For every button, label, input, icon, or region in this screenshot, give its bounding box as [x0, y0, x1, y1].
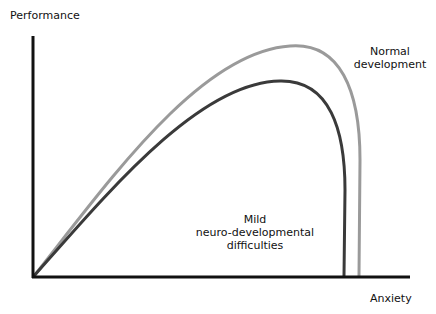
- mild-label-line1: Mild: [190, 213, 320, 226]
- yerkes-dodson-diagram: Performance Anxiety Normal development M…: [0, 0, 436, 314]
- normal-label-line2: development: [346, 58, 434, 71]
- normal-development-label: Normal development: [346, 45, 434, 71]
- mild-label-line2: neuro-developmental: [190, 226, 320, 239]
- normal-label-line1: Normal: [346, 45, 434, 58]
- mild-label-line3: difficulties: [190, 239, 320, 252]
- mild-difficulties-label: Mild neuro-developmental difficulties: [190, 213, 320, 252]
- x-axis-label: Anxiety: [370, 292, 412, 305]
- y-axis-label: Performance: [10, 9, 80, 22]
